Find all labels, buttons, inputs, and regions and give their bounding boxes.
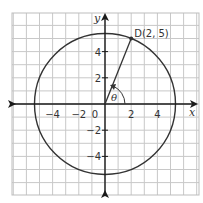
y-tick-label: 2 — [95, 73, 101, 84]
y-tick-label: 4 — [95, 47, 101, 58]
x-axis-label: x — [189, 106, 196, 119]
x-tick-label: 0 — [92, 109, 98, 120]
theta-label: θ — [111, 92, 117, 103]
x-tick-label: 2 — [128, 109, 134, 120]
x-tick-label: −2 — [71, 109, 86, 120]
x-tick-label: 4 — [154, 109, 160, 120]
y-tick-label: −4 — [86, 151, 101, 162]
diagram-svg: −4−202442−2−4 x y D(2, 5) θ — [0, 0, 203, 203]
x-tick-label: −4 — [45, 109, 60, 120]
y-tick-label: −2 — [86, 125, 101, 136]
y-axis-label: y — [93, 12, 101, 25]
point-d-label: D(2, 5) — [134, 28, 169, 39]
point-d — [129, 37, 133, 41]
coordinate-plane-diagram: −4−202442−2−4 x y D(2, 5) θ — [0, 0, 203, 203]
